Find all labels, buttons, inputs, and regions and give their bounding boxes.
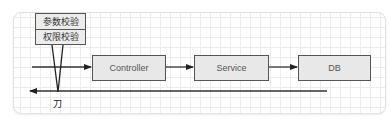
validation-labels: 参数校验 权限校验 <box>35 13 86 45</box>
knife-label: 刀 <box>53 97 62 110</box>
db-node: DB <box>298 55 371 81</box>
service-node: Service <box>194 55 269 81</box>
label-param-validation: 参数校验 <box>36 14 85 29</box>
label-permission-validation: 权限校验 <box>36 29 85 45</box>
db-label: DB <box>328 63 341 73</box>
service-label: Service <box>216 63 246 73</box>
controller-label: Controller <box>109 63 148 73</box>
knife-icon <box>52 45 63 92</box>
controller-node: Controller <box>92 55 166 81</box>
